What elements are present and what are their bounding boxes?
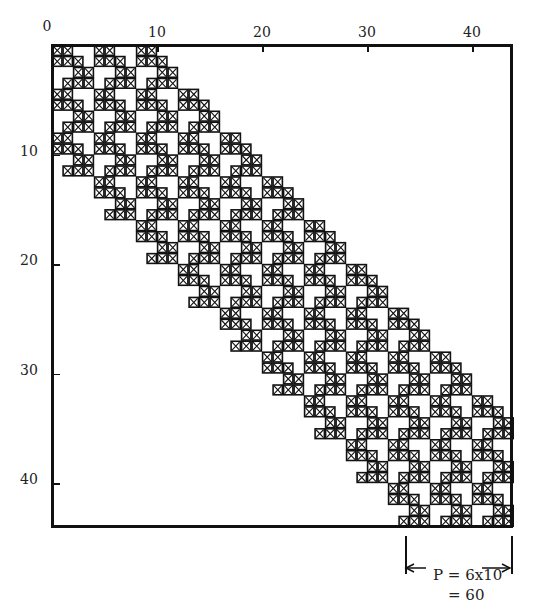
nonzero-cell [74, 111, 83, 121]
nonzero-cell [84, 155, 93, 165]
nonzero-cell [105, 46, 114, 56]
nonzero-cell [158, 122, 167, 132]
nonzero-cell [273, 363, 282, 373]
nonzero-cell [315, 232, 324, 242]
nonzero-cell [158, 210, 167, 220]
nonzero-cell [53, 100, 62, 110]
nonzero-cell [504, 473, 513, 483]
nonzero-cell [347, 407, 356, 417]
nonzero-cell [210, 287, 219, 297]
nonzero-cell [242, 210, 251, 220]
nonzero-cell [252, 297, 261, 307]
nonzero-cell [252, 243, 261, 253]
nonzero-cell [452, 385, 461, 395]
nonzero-cell [74, 57, 83, 67]
nonzero-cell [284, 341, 293, 351]
nonzero-cell [137, 57, 146, 67]
nonzero-cell [95, 89, 104, 99]
nonzero-cell [126, 122, 135, 132]
nonzero-cell [116, 78, 125, 88]
nonzero-cell [326, 407, 335, 417]
nonzero-cell [410, 374, 419, 384]
nonzero-cell [452, 506, 461, 516]
nonzero-cell [389, 319, 398, 329]
nonzero-cell [74, 166, 83, 176]
nonzero-cell [494, 418, 503, 428]
nonzero-cell [389, 352, 398, 362]
nonzero-cell [95, 188, 104, 198]
nonzero-cell [63, 166, 72, 176]
nonzero-cell [347, 363, 356, 373]
nonzero-cell [326, 297, 335, 307]
nonzero-cell [431, 484, 440, 494]
nonzero-cell [326, 232, 335, 242]
nonzero-cell [242, 287, 251, 297]
nonzero-cell [315, 297, 324, 307]
nonzero-cell [168, 78, 177, 88]
nonzero-cell [399, 473, 408, 483]
nonzero-cell [158, 57, 167, 67]
nonzero-cell [315, 308, 324, 318]
nonzero-cell [200, 188, 209, 198]
nonzero-cell [494, 429, 503, 439]
nonzero-cell [63, 144, 72, 154]
nonzero-cell [95, 100, 104, 110]
nonzero-cell [84, 122, 93, 132]
nonzero-cell [378, 341, 387, 351]
nonzero-cell [410, 418, 419, 428]
y-tick [54, 374, 60, 376]
nonzero-cell [210, 297, 219, 307]
nonzero-cell [326, 243, 335, 253]
nonzero-cell [504, 462, 513, 472]
nonzero-cell [389, 484, 398, 494]
nonzero-cell [389, 396, 398, 406]
nonzero-cell [242, 144, 251, 154]
nonzero-cell [462, 385, 471, 395]
nonzero-cell [483, 473, 492, 483]
nonzero-cell [200, 166, 209, 176]
nonzero-cell [399, 451, 408, 461]
nonzero-cell [53, 133, 62, 143]
nonzero-cell [147, 144, 156, 154]
nonzero-cell [462, 374, 471, 384]
nonzero-cell [179, 232, 188, 242]
nonzero-cell [74, 155, 83, 165]
nonzero-cell [347, 319, 356, 329]
nonzero-pattern-grid [52, 45, 514, 529]
nonzero-cell [242, 232, 251, 242]
nonzero-cell [336, 418, 345, 428]
nonzero-cell [494, 495, 503, 505]
nonzero-cell [74, 100, 83, 110]
nonzero-cell [242, 254, 251, 264]
nonzero-cell [410, 516, 419, 526]
nonzero-cell [126, 210, 135, 220]
nonzero-cell [273, 308, 282, 318]
nonzero-cell [378, 330, 387, 340]
nonzero-cell [305, 221, 314, 231]
nonzero-cell [126, 199, 135, 209]
nonzero-cell [357, 352, 366, 362]
nonzero-cell [200, 287, 209, 297]
nonzero-cell [179, 265, 188, 275]
nonzero-cell [116, 68, 125, 78]
nonzero-cell [263, 363, 272, 373]
nonzero-cell [105, 57, 114, 67]
nonzero-cell [431, 451, 440, 461]
nonzero-cell [420, 418, 429, 428]
nonzero-cell [441, 440, 450, 450]
nonzero-cell [158, 166, 167, 176]
nonzero-cell [420, 385, 429, 395]
nonzero-cell [147, 166, 156, 176]
nonzero-cell [473, 407, 482, 417]
nonzero-cell [189, 276, 198, 286]
nonzero-cell [231, 276, 240, 286]
nonzero-cell [315, 341, 324, 351]
nonzero-cell [452, 462, 461, 472]
nonzero-cell [231, 308, 240, 318]
nonzero-cell [315, 385, 324, 395]
nonzero-cell [105, 166, 114, 176]
nonzero-cell [399, 396, 408, 406]
nonzero-cell [221, 133, 230, 143]
nonzero-cell [378, 374, 387, 384]
nonzero-cell [431, 363, 440, 373]
